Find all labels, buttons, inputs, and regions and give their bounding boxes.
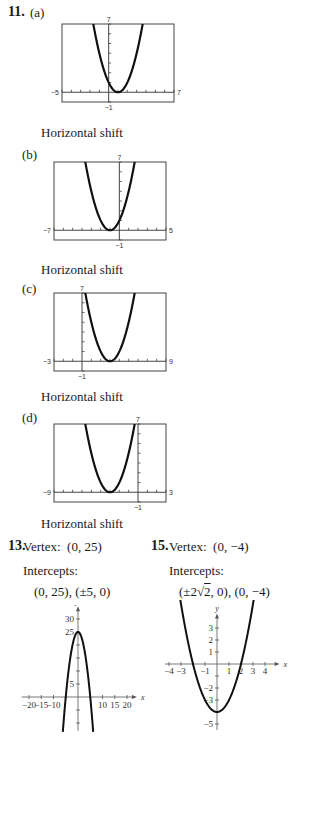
x-axis-label: x xyxy=(140,693,145,702)
y-tick-label: 30 xyxy=(65,614,75,624)
y-axis-label: y xyxy=(214,604,219,613)
y-tick-label: −2 xyxy=(203,683,213,693)
x-tick-label: 3 xyxy=(251,666,256,676)
ymin-label: −1 xyxy=(78,373,86,380)
vertex-value: (0, −4) xyxy=(213,539,249,554)
y-tick-label: 25 xyxy=(65,627,75,637)
x-tick-label: −4 xyxy=(165,666,174,676)
y-tick-label: 2 xyxy=(209,635,214,645)
graph-13: xy−20−15−1010152052530 xyxy=(0,605,160,795)
y-axis-arrow xyxy=(76,606,80,611)
part-b-label: (b) xyxy=(22,147,37,163)
parabola-curve xyxy=(62,14,174,92)
vertex-value: (0, 25) xyxy=(67,539,102,554)
part-c-label: (c) xyxy=(22,281,36,297)
x-tick-label: −10 xyxy=(46,700,61,710)
parabola-curve xyxy=(54,152,166,230)
xmax-label: 5 xyxy=(169,227,173,234)
y-tick-label: −5 xyxy=(203,719,213,729)
part-a-caption: Horizontal shift xyxy=(41,125,123,141)
ymax-label: 7 xyxy=(80,285,84,292)
x-tick-label: 20 xyxy=(123,700,133,710)
ymin-label: −1 xyxy=(115,242,123,249)
ymin-label: −1 xyxy=(134,504,142,511)
part-a-label: (a) xyxy=(30,5,44,21)
vertex-label: Vertex: xyxy=(169,539,207,554)
ymax-label: 7 xyxy=(107,16,111,23)
xmin-label: −7 xyxy=(43,227,51,234)
part-b-caption: Horizontal shift xyxy=(41,262,123,278)
x-tick-label: 15 xyxy=(110,700,120,710)
parabola-curve xyxy=(54,414,166,492)
ymax-label: 7 xyxy=(117,154,121,161)
y-axis-arrow xyxy=(215,613,219,618)
parabola-curve xyxy=(54,283,166,361)
xmin-label: −5 xyxy=(51,89,59,96)
intercepts-post: , 0), (0, −4) xyxy=(211,584,270,599)
y-tick-label: 3 xyxy=(209,623,214,633)
graph-11d: −937−1 xyxy=(40,414,180,514)
xmin-label: −3 xyxy=(43,358,51,365)
part-d-label: (d) xyxy=(22,410,37,426)
problem-13-intercepts-value: (0, 25), (±5, 0) xyxy=(34,584,110,600)
x-axis-arrow xyxy=(275,662,280,666)
intercepts-pre: (±2 xyxy=(179,584,197,599)
problem-13-intercepts-label: Intercepts: xyxy=(23,563,78,579)
ymax-label: 7 xyxy=(136,416,140,423)
graph-11c: −397−1 xyxy=(40,283,180,383)
y-tick-label: 1 xyxy=(209,647,214,657)
xmax-label: 7 xyxy=(177,89,181,96)
x-tick-label: 10 xyxy=(98,700,108,710)
part-d-caption: Horizontal shift xyxy=(41,516,123,532)
graph-11b: −757−1 xyxy=(40,152,180,252)
problem-11-number: 11. xyxy=(8,4,25,20)
problem-13-vertex: Vertex: (0, 25) xyxy=(23,539,102,555)
problem-15-intercepts-value: (±2√2, 0), (0, −4) xyxy=(179,584,270,600)
problem-15-vertex: Vertex: (0, −4) xyxy=(169,539,249,555)
part-c-caption: Horizontal shift xyxy=(41,389,123,405)
y-axis-label: y xyxy=(74,605,79,606)
x-axis-label: x xyxy=(283,660,288,669)
graph-11a: −577−1 xyxy=(48,14,188,114)
vertex-label: Vertex: xyxy=(23,539,61,554)
problem-15-number: 15. xyxy=(151,538,169,554)
problem-15-intercepts-label: Intercepts: xyxy=(169,563,224,579)
x-tick-label: 1 xyxy=(227,666,232,676)
x-axis-arrow xyxy=(132,695,137,699)
x-tick-label: −3 xyxy=(176,666,186,676)
x-tick-label: 4 xyxy=(263,666,268,676)
xmin-label: −9 xyxy=(43,489,51,496)
x-tick-label: −1 xyxy=(200,666,210,676)
graph-15: xy−4−3−11234321−2−3−5 xyxy=(165,600,325,770)
y-tick-label: 5 xyxy=(70,679,75,689)
xmax-label: 9 xyxy=(169,358,173,365)
xmax-label: 3 xyxy=(169,489,173,496)
ymin-label: −1 xyxy=(105,104,113,111)
